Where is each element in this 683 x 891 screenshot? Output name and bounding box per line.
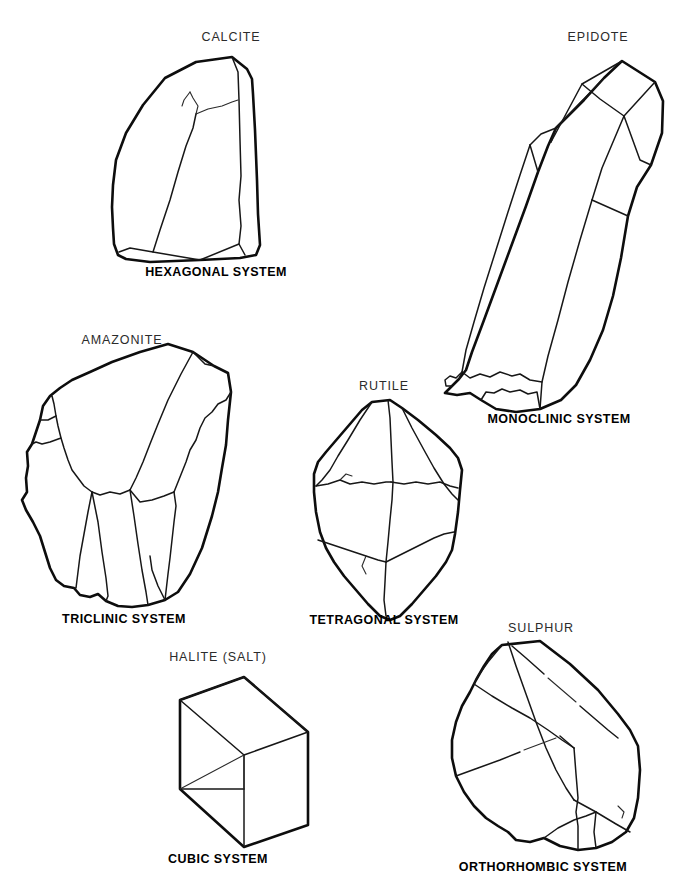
crystal-systems-figure [0,0,683,891]
crystal-drawing-sulphur [452,641,640,850]
crystal-drawing-rutile [314,400,462,620]
specimen-label-sulphur: SULPHUR [508,621,574,635]
specimen-label-amazonite: AMAZONITE [81,333,162,347]
specimen-label-halite: HALITE (SALT) [169,650,267,664]
crystal-drawing-epidote [445,61,663,412]
system-label-cubic: CUBIC SYSTEM [168,852,268,866]
specimen-label-epidote: EPIDOTE [567,30,628,44]
crystal-drawing-amazonite [22,344,231,607]
system-label-monoclinic: MONOCLINIC SYSTEM [487,412,630,426]
system-label-tetragonal: TETRAGONAL SYSTEM [309,613,458,627]
crystal-drawing-calcite [112,57,260,262]
system-label-orthorhombic: ORTHORHOMBIC SYSTEM [459,860,627,874]
system-label-triclinic: TRICLINIC SYSTEM [62,612,186,626]
system-label-hexagonal: HEXAGONAL SYSTEM [145,265,287,279]
specimen-label-calcite: CALCITE [201,30,260,44]
crystal-drawing-halite [180,677,308,847]
specimen-label-rutile: RUTILE [359,379,409,393]
